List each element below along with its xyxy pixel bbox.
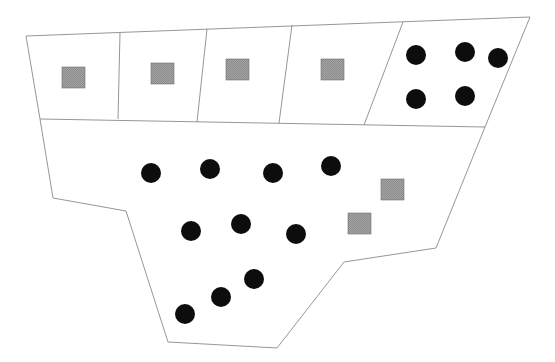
circle-marker-icon: [455, 42, 475, 62]
square-markers: [62, 59, 404, 234]
circle-marker-icon: [181, 221, 201, 241]
circle-marker-icon: [244, 269, 264, 289]
middle-divider-line: [40, 119, 485, 127]
circle-marker-icon: [406, 45, 426, 65]
circle-marker-icon: [141, 163, 161, 183]
circle-marker-icon: [455, 86, 475, 106]
square-marker-icon: [321, 59, 344, 80]
circle-marker-icon: [231, 214, 251, 234]
square-marker-icon: [151, 63, 174, 84]
circle-marker-icon: [200, 159, 220, 179]
circle-marker-icon: [286, 224, 306, 244]
square-marker-icon: [226, 59, 249, 80]
cell-divider-1: [118, 33, 120, 119]
circle-marker-icon: [406, 89, 426, 109]
square-marker-icon: [62, 67, 85, 88]
circle-marker-icon: [321, 156, 341, 176]
circle-marker-icon: [175, 304, 195, 324]
circle-marker-icon: [488, 48, 508, 68]
cell-divider-3: [279, 25, 292, 123]
cell-divider-2: [197, 29, 207, 122]
circle-markers: [141, 42, 508, 324]
region-diagram: [0, 0, 555, 362]
circle-marker-icon: [211, 287, 231, 307]
cell-divider-4: [364, 22, 403, 125]
circle-marker-icon: [263, 163, 283, 183]
square-marker-icon: [348, 213, 371, 234]
square-marker-icon: [381, 179, 404, 200]
outer-boundary: [26, 17, 530, 348]
